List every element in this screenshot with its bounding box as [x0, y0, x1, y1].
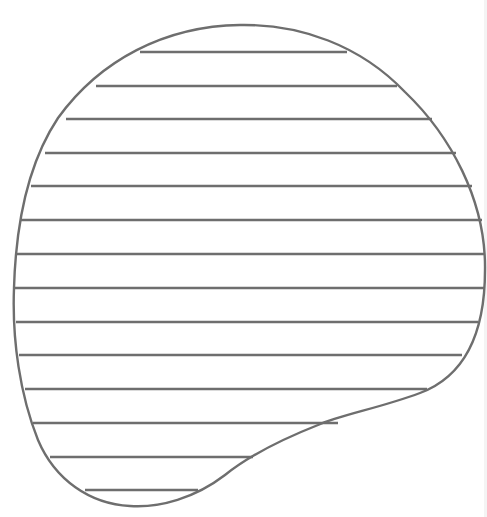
hatch-lines: [14, 52, 485, 490]
hatched-blob-figure: [0, 0, 487, 517]
blob-outline: [14, 25, 485, 506]
